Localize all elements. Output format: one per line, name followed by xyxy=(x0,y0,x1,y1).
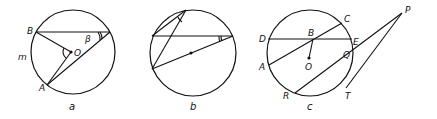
figure-c: D B C E O A Q R T P c xyxy=(258,5,411,112)
label-a: A xyxy=(38,83,45,93)
label-c: C xyxy=(344,14,351,24)
center-dot-o xyxy=(307,56,310,59)
chord-ac xyxy=(269,23,342,65)
label-beta: β xyxy=(84,34,91,44)
inscribed-angle-arc-2 xyxy=(98,32,100,40)
figure-b: b xyxy=(150,10,236,112)
angle-mark-right-2 xyxy=(219,36,220,42)
chord-top-lowerleft xyxy=(152,10,186,69)
label-m: m xyxy=(18,52,27,62)
center-dot-o xyxy=(69,50,72,53)
caption-c: c xyxy=(307,101,313,112)
label-e: E xyxy=(353,37,359,47)
center-dot xyxy=(189,51,192,54)
label-o: O xyxy=(305,62,312,72)
label-t: T xyxy=(345,91,352,101)
caption-b: b xyxy=(190,101,196,112)
label-p: P xyxy=(405,5,411,15)
label-b: B xyxy=(308,28,314,38)
figure-a: B O A m β a xyxy=(18,10,115,112)
angle-mark-right-1 xyxy=(221,36,222,41)
label-o: O xyxy=(74,48,81,58)
label-b: B xyxy=(27,26,33,36)
caption-a: a xyxy=(69,101,75,112)
label-d: D xyxy=(259,34,266,44)
label-q: Q xyxy=(343,50,350,60)
label-r: R xyxy=(283,91,289,101)
tangent-tp xyxy=(346,13,402,88)
radius-bo xyxy=(36,32,71,52)
geometry-diagram: B O A m β a b D B C E O A Q R T P xyxy=(0,0,437,119)
circle-b xyxy=(150,10,236,96)
label-a: A xyxy=(258,62,265,72)
chord-left-top xyxy=(152,10,186,36)
circle-a xyxy=(31,10,115,94)
